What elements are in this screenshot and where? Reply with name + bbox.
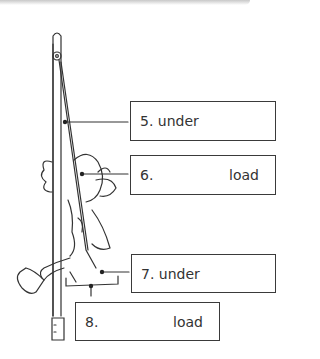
pole-icon [53,33,61,316]
label-5-text: 5. under [140,113,199,129]
label-8-word: load [173,314,203,330]
label-6-number: 6. [140,167,153,183]
point-7-icon [100,270,104,274]
pulley-icon [53,52,61,60]
point-5-icon [63,120,67,124]
label-box-5: 5. under [130,101,276,141]
label-7-text: 7. under [141,266,200,282]
label-8-number: 8. [85,314,98,330]
point-8-icon [89,284,93,288]
label-box-7: 7. under [131,254,276,293]
point-6-icon [80,172,84,176]
label-box-8: 8. load [75,302,220,341]
label-6-word: load [229,167,259,183]
label-box-6: 6. load [130,155,276,195]
